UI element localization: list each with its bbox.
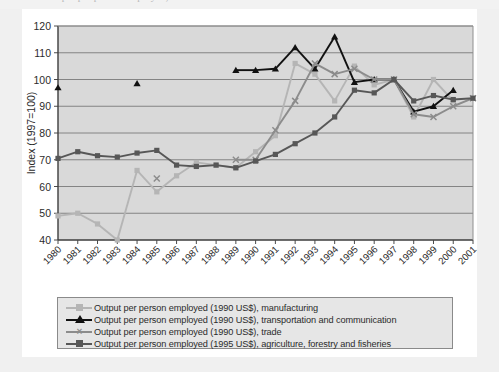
data-point-marker [233,165,238,170]
data-point-marker [75,211,80,216]
data-point-marker [95,153,100,158]
x-tick-label: 1996 [357,244,380,267]
series-line-segment [98,156,118,157]
x-tick-label: 1993 [297,244,320,267]
data-point-marker [372,90,377,95]
data-point-marker [391,77,396,82]
legend-item-label: Output per person employed (1990 US$), t… [94,315,396,325]
data-point-marker [293,141,298,146]
data-point-marker [95,221,100,226]
x-tick-label: 1989 [218,244,241,267]
data-point-marker [293,61,298,66]
legend-item-label: Output per person employed (1990 US$), t… [94,327,282,337]
data-point-marker [253,149,258,154]
data-point-marker [75,149,80,154]
data-point-marker [352,88,357,93]
page-title: Output per person employed, selected sec… [46,0,237,2]
data-point-marker [174,173,179,178]
series-line-segment [177,165,197,166]
legend-key-square-icon [64,302,94,313]
data-point-marker [55,213,60,218]
data-point-marker [312,72,317,77]
chart-page: Output per person employed, selected sec… [0,0,499,372]
x-tick-label: 1987 [179,244,202,267]
plot-area-wrapper: 405060708090100110120Index (1997=100)198… [22,9,477,277]
data-point-marker [372,82,377,87]
chart-legend: Output per person employed (1990 US$), m… [57,297,453,349]
data-point-marker [431,77,436,82]
data-point-marker [194,164,199,169]
legend-key-triangle-icon [64,314,94,325]
data-point-marker [332,114,337,119]
x-tick-label: 1980 [41,244,64,267]
y-tick-label: 60 [39,181,51,193]
y-tick-label: 40 [39,234,51,246]
x-tick-label: 1982 [80,244,103,267]
legend-item[interactable]: Output per person employed (1990 US$), m… [64,302,452,314]
x-tick-label: 1998 [396,244,419,267]
x-tick-label: 2000 [436,244,459,267]
y-tick-label: 120 [33,20,51,32]
line-chart: 405060708090100110120Index (1997=100)198… [22,9,477,277]
data-point-marker [411,98,416,103]
x-tick-label: 1984 [120,243,143,266]
x-tick-label: 1994 [317,243,340,266]
x-tick-label: 1983 [100,244,123,267]
x-tick-label: 1997 [376,244,399,267]
data-point-marker [174,163,179,168]
legend-key-square-icon [64,338,94,349]
x-tick-label: 1999 [416,244,439,267]
data-point-marker [451,97,456,102]
data-point-marker [115,237,120,242]
y-tick-label: 80 [39,127,51,139]
x-tick-label: 1985 [139,244,162,267]
legend-item[interactable]: Output per person employed (1995 US$), a… [64,338,452,350]
y-tick-label: 110 [34,47,51,59]
x-tick-label: 1995 [337,244,360,267]
legend-item-label: Output per person employed (1995 US$), a… [94,339,391,349]
data-point-marker [134,150,139,155]
legend-item-label: Output per person employed (1990 US$), m… [94,303,318,313]
data-point-marker [154,148,159,153]
data-point-marker [470,96,475,101]
clipped-title-strip: Output per person employed, selected sec… [0,0,499,9]
data-point-marker [134,168,139,173]
y-tick-label: 100 [33,74,51,86]
data-point-marker [55,156,60,161]
data-point-marker [431,93,436,98]
data-point-marker [332,98,337,103]
data-point-marker [154,189,159,194]
series-line-segment [453,98,473,99]
x-tick-label: 1991 [258,244,281,267]
y-tick-label: 50 [39,207,51,219]
legend-item[interactable]: Output per person employed (1990 US$), t… [64,314,452,326]
series-line-segment [256,69,276,70]
x-tick-label: 1986 [159,244,182,267]
x-tick-label: 1992 [278,244,301,267]
y-tick-label: 90 [39,100,51,112]
data-point-marker [253,158,258,163]
data-point-marker [312,130,317,135]
y-tick-label: 70 [39,154,51,166]
x-tick-label: 1990 [238,244,261,267]
data-point-marker [213,163,218,168]
legend-key-x-icon: × [64,326,94,337]
series-line-segment [196,165,216,166]
data-point-marker [115,154,120,159]
legend-item[interactable]: ×Output per person employed (1990 US$), … [64,326,452,338]
chart-card: 405060708090100110120Index (1997=100)198… [22,9,477,357]
x-tick-label: 1981 [60,244,83,267]
x-tick-label: 1988 [199,244,222,267]
data-point-marker [273,152,278,157]
y-axis-title: Index (1997=100) [25,92,37,175]
x-tick-label: 2001 [456,244,477,267]
